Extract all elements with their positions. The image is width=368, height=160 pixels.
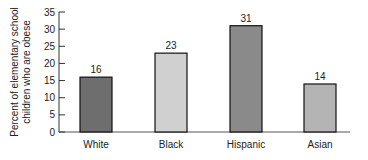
bar-asian — [304, 84, 336, 132]
bars — [80, 26, 336, 132]
y-tick-label: 25 — [44, 41, 56, 52]
x-tick-label-white: White — [83, 139, 109, 150]
data-label-white: 16 — [90, 64, 102, 75]
bar-white — [80, 77, 112, 132]
bar-chart: Percent of elementary school children wh… — [0, 0, 368, 160]
y-tick-label: 35 — [44, 7, 56, 18]
y-tick-label: 5 — [49, 109, 55, 120]
data-label-hispanic: 31 — [240, 13, 252, 24]
y-tick-label: 20 — [44, 58, 56, 69]
data-label-black: 23 — [165, 40, 177, 51]
x-tick-label-asian: Asian — [307, 139, 332, 150]
bar-hispanic — [230, 26, 262, 132]
y-tick-label: 15 — [44, 75, 56, 86]
data-label-asian: 14 — [314, 71, 326, 82]
x-tick-label-black: Black — [159, 139, 184, 150]
y-tick-label: 0 — [49, 127, 55, 138]
y-tick-label: 10 — [44, 92, 56, 103]
y-axis-label: Percent of elementary school children wh… — [9, 7, 32, 137]
labels: 16White23Black31Hispanic14Asian — [83, 13, 332, 150]
bar-black — [155, 53, 187, 132]
y-axis-label-line-1: Percent of elementary school — [9, 7, 20, 137]
y-tick-label: 30 — [44, 24, 56, 35]
y-axis-label-line-2: children who are obese — [21, 20, 32, 124]
x-tick-label-hispanic: Hispanic — [227, 139, 265, 150]
